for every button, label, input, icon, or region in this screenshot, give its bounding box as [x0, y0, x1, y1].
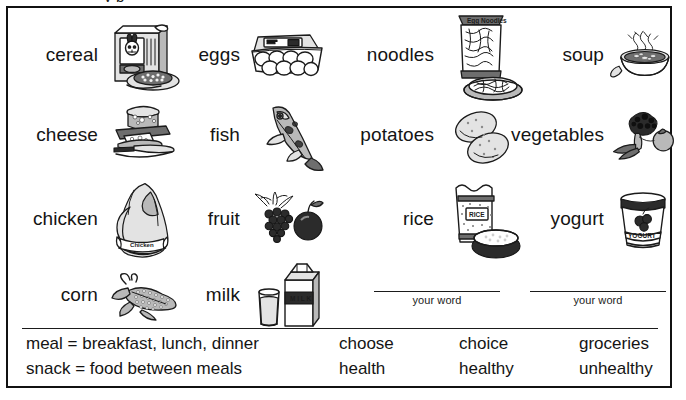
vocab-word-label: fish — [130, 124, 240, 146]
worksheet-page: y p cereal eggs — [0, 0, 686, 400]
svg-text:YOGURT: YOGURT — [628, 232, 656, 239]
vocabulary-word-1: choose — [339, 334, 394, 354]
vocab-word-label: fruit — [130, 208, 240, 230]
vocabulary-band: meal = breakfast, lunch, dinnerchoosecho… — [8, 334, 670, 390]
vocab-word-label: chicken — [0, 208, 98, 230]
svg-text:Chicken: Chicken — [130, 242, 154, 248]
vocab-word-label: soup — [508, 44, 604, 66]
section-divider — [22, 328, 658, 329]
vocabulary-definition: snack = food between meals — [26, 359, 242, 379]
your-word-blank[interactable]: your word — [374, 291, 500, 306]
your-word-caption: your word — [374, 294, 500, 306]
fish-icon — [244, 100, 330, 174]
vocab-word-label: milk — [130, 284, 240, 306]
clipped-page-title: y p — [104, 0, 584, 2]
svg-text:Egg Noodles: Egg Noodles — [467, 17, 507, 25]
your-word-caption: your word — [530, 294, 666, 306]
vocab-word-label: rice — [348, 208, 434, 230]
vocabulary-word-1: health — [339, 359, 385, 379]
your-word-rule[interactable] — [530, 291, 666, 292]
vocab-word-label: corn — [0, 284, 98, 306]
svg-text:RICE: RICE — [469, 211, 485, 218]
vocab-word-label: noodles — [348, 44, 434, 66]
vocab-word-label: cereal — [0, 44, 98, 66]
vocab-word-label: eggs — [130, 44, 240, 66]
vocabulary-definition: meal = breakfast, lunch, dinner — [26, 334, 259, 354]
vocabulary-row: meal = breakfast, lunch, dinnerchoosecho… — [8, 334, 670, 360]
vocabulary-row: snack = food between mealshealthhealthyu… — [8, 359, 670, 385]
vocabulary-word-2: choice — [459, 334, 508, 354]
vocab-word-label: vegetables — [508, 124, 604, 146]
grapes-apple-icon — [244, 184, 330, 258]
soup-bowl-icon — [608, 24, 678, 90]
vocabulary-word-3: groceries — [579, 334, 649, 354]
yogurt-cup-icon: YOGURT — [608, 188, 678, 254]
vocab-word-label: cheese — [0, 124, 98, 146]
vocab-word-label: potatoes — [348, 124, 434, 146]
svg-text:M I L K: M I L K — [290, 295, 311, 302]
egg-carton-icon — [244, 20, 330, 94]
picture-word-grid: cereal eggs — [8, 8, 670, 321]
broccoli-icon — [608, 104, 678, 170]
vocabulary-word-2: healthy — [459, 359, 514, 379]
worksheet-frame: cereal eggs — [6, 6, 672, 388]
milk-carton-icon: M I L K — [244, 260, 330, 334]
your-word-rule[interactable] — [374, 291, 500, 292]
vocabulary-word-3: unhealthy — [579, 359, 653, 379]
vocab-word-label: yogurt — [508, 208, 604, 230]
your-word-blank[interactable]: your word — [530, 291, 666, 306]
